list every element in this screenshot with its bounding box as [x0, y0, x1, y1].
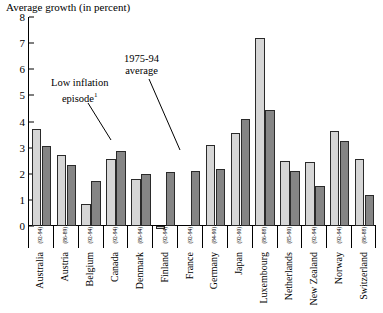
x-axis-tick-mark: [227, 226, 228, 248]
bar: [206, 145, 215, 226]
bar: [131, 179, 140, 226]
category-group: (92-94)France: [177, 226, 202, 313]
bar: [32, 129, 41, 226]
y-axis-tick-mark: [29, 69, 34, 70]
bar: [280, 161, 289, 226]
country-label: Austria: [60, 252, 70, 281]
x-axis-tick-mark: [326, 226, 327, 248]
bar: [116, 151, 125, 226]
country-label: Australia: [35, 252, 45, 289]
y-axis-tick-label: 5: [20, 90, 26, 101]
bar: [241, 119, 250, 226]
bar: [315, 186, 324, 226]
bar: [166, 172, 175, 226]
bar: [106, 159, 115, 226]
y-axis-tick-label: 8: [20, 12, 26, 23]
y-axis-tick-label: 4: [20, 116, 26, 127]
x-axis-tick-mark: [277, 226, 278, 248]
category-group: (92-94)New Zealand: [301, 226, 326, 313]
country-label: France: [185, 252, 195, 279]
bar: [216, 169, 225, 226]
category-group: (92-94)Australia: [28, 226, 53, 313]
bar-chart: Average growth (in percent) 012345678 (9…: [0, 0, 383, 313]
bar: [141, 174, 150, 226]
x-axis-tick-mark: [301, 226, 302, 248]
category-group: (86-88)Luxembourg: [252, 226, 277, 313]
bar: [231, 133, 240, 226]
category-axis: (92-94)Australia(86-89)Austria(92-94)Bel…: [28, 226, 376, 313]
country-label: Luxembourg: [259, 252, 269, 303]
y-axis-tick-label: 7: [20, 38, 26, 49]
category-group: (92-94)Canada: [103, 226, 128, 313]
y-axis-tick-mark: [29, 121, 34, 122]
category-group: (92-94)Finland: [152, 226, 177, 313]
x-axis-tick-mark: [127, 226, 128, 248]
country-label: Denmark: [135, 252, 145, 289]
y-axis-tick-mark: [29, 17, 34, 18]
plot-area: 012345678: [28, 17, 376, 226]
episode-year-label: (86-89): [62, 227, 68, 244]
country-label: Belgium: [85, 252, 95, 286]
episode-year-label: (85-90): [286, 227, 292, 244]
x-axis-tick-mark: [53, 226, 54, 248]
episode-year-label: (92-90): [236, 227, 242, 244]
bar: [191, 171, 200, 226]
episode-year-label: (92-94): [112, 227, 118, 244]
bar: [91, 181, 100, 226]
x-axis-tick-mark: [103, 226, 104, 248]
country-label: New Zealand: [309, 252, 319, 306]
country-label: Germany: [209, 252, 219, 289]
episode-year-label: (86-88): [261, 227, 267, 244]
episode-year-label: (92-94): [336, 227, 342, 244]
bar: [340, 141, 349, 226]
bar: [355, 159, 364, 226]
y-axis-tick-mark: [29, 95, 34, 96]
y-axis-tick-label: 3: [20, 142, 26, 153]
bar: [290, 171, 299, 226]
country-label: Switzerland: [359, 252, 369, 300]
x-axis-tick-mark: [177, 226, 178, 248]
bar: [330, 131, 339, 226]
category-group: (92-94)Belgium: [78, 226, 103, 313]
bar: [42, 146, 51, 226]
category-group: (86-89)Austria: [53, 226, 78, 313]
category-group: (86-94)Denmark: [127, 226, 152, 313]
country-label: Japan: [234, 252, 244, 275]
annotation-average-line1: 1975-94: [124, 53, 159, 64]
episode-year-label: (92-94): [311, 227, 317, 244]
annotation-footnote-marker: 1: [94, 91, 98, 99]
annotation-low-inflation-line1: Low inflation: [51, 77, 108, 88]
country-label: Finland: [160, 252, 170, 283]
bar: [305, 162, 314, 226]
episode-year-label: (86-94): [137, 227, 143, 244]
annotation-low-inflation-line2: episode: [62, 93, 94, 104]
x-axis-tick-mark: [28, 226, 29, 248]
category-group: (92-90)Japan: [227, 226, 252, 313]
x-axis-tick-mark: [202, 226, 203, 248]
y-axis-tick-label: 2: [20, 168, 26, 179]
country-label: Norway: [334, 252, 344, 284]
y-axis-tick-label: 6: [20, 64, 26, 75]
x-axis-tick-mark: [152, 226, 153, 248]
x-axis-tick-mark: [351, 226, 352, 248]
episode-year-label: (92-94): [187, 227, 193, 244]
y-axis-tick-label: 1: [20, 194, 26, 205]
category-group: (86-88)Switzerland: [351, 226, 376, 313]
bar: [365, 195, 374, 226]
episode-year-label: (84-90): [211, 227, 217, 244]
y-axis-tick-label: 0: [20, 221, 26, 232]
annotation-low-inflation: Low inflation episode1: [51, 77, 108, 105]
x-axis-tick-mark: [78, 226, 79, 248]
bar: [255, 38, 264, 226]
bar: [265, 110, 274, 226]
episode-year-label: (86-88): [361, 227, 367, 244]
category-group: (85-90)Netherlands: [277, 226, 302, 313]
category-group: (84-90)Germany: [202, 226, 227, 313]
plot-inner: 012345678: [29, 17, 376, 225]
episode-year-label: (92-94): [87, 227, 93, 244]
category-group: (92-94)Norway: [326, 226, 351, 313]
country-label: Netherlands: [284, 252, 294, 300]
bar: [57, 155, 66, 226]
annotation-average: 1975-94 average: [124, 53, 159, 77]
annotation-average-line2: average: [125, 65, 158, 76]
